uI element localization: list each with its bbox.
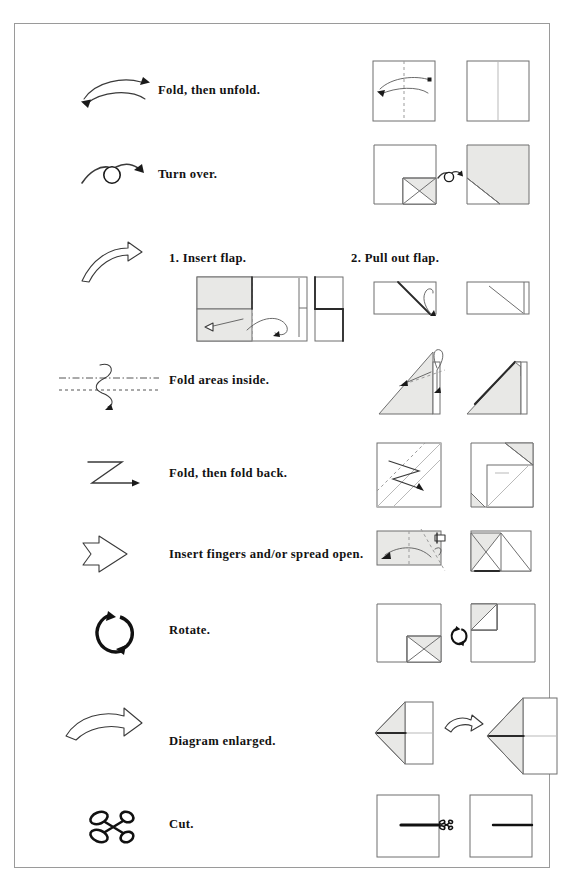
hollow-swoosh-arrow-icon xyxy=(53,702,171,752)
turn-over-loop-arrow-icon xyxy=(61,152,171,198)
row-cut: Cut. xyxy=(15,789,551,869)
row-label-insert-fingers-spread-open: Insert fingers and/or spread open. xyxy=(169,547,363,562)
row-label-fold-then-unfold: Fold, then unfold. xyxy=(158,83,260,98)
row-fold-areas-inside: Fold areas inside. xyxy=(15,344,551,424)
s-curve-arrow-between-fold-lines-icon xyxy=(51,356,171,412)
cut-diagram xyxy=(375,791,555,861)
fold-unfold-diagram xyxy=(372,58,552,124)
row-fold-then-fold-back: Fold, then fold back. xyxy=(15,439,551,519)
row-fold-then-unfold: Fold, then unfold. xyxy=(15,56,551,128)
rotate-circular-arrows-icon xyxy=(61,608,171,658)
scissors-icon xyxy=(61,803,171,851)
row-diagram-enlarged: Diagram enlarged. xyxy=(15,684,551,779)
fold-areas-inside-diagram xyxy=(375,346,555,422)
hollow-curved-arrow-icon xyxy=(61,237,171,287)
row-label-cut: Cut. xyxy=(169,817,194,832)
pull-out-flap-diagram xyxy=(372,277,552,323)
row-insert-pull-flap: 1. Insert flap. 2. Pull out flap. xyxy=(15,229,551,344)
row-label-fold-then-fold-back: Fold, then fold back. xyxy=(169,466,287,481)
double-headed-curved-arrow-icon xyxy=(61,68,171,114)
page-canvas: Fold, then unfold. xyxy=(0,0,565,894)
row-turn-over: Turn over. xyxy=(15,142,551,214)
row-label-insert-flap: 1. Insert flap. xyxy=(169,251,246,266)
row-insert-fingers-spread-open: Insert fingers and/or spread open. xyxy=(15,519,551,599)
zigzag-z-arrow-icon xyxy=(61,451,171,497)
row-label-pull-out-flap: 2. Pull out flap. xyxy=(351,251,439,266)
turn-over-diagram xyxy=(372,142,552,210)
rotate-diagram xyxy=(375,600,555,670)
hollow-block-arrow-icon xyxy=(61,531,171,579)
row-rotate: Rotate. xyxy=(15,596,551,676)
spread-open-diagram xyxy=(375,527,555,583)
row-label-turn-over: Turn over. xyxy=(158,167,217,182)
insert-flap-diagram xyxy=(195,275,345,345)
row-label-rotate: Rotate. xyxy=(169,623,210,638)
row-label-fold-areas-inside: Fold areas inside. xyxy=(169,373,269,388)
enlarge-diagram xyxy=(373,696,559,776)
page-frame: Fold, then unfold. xyxy=(14,23,550,868)
fold-fold-back-diagram xyxy=(375,439,555,511)
row-label-diagram-enlarged: Diagram enlarged. xyxy=(169,734,276,749)
